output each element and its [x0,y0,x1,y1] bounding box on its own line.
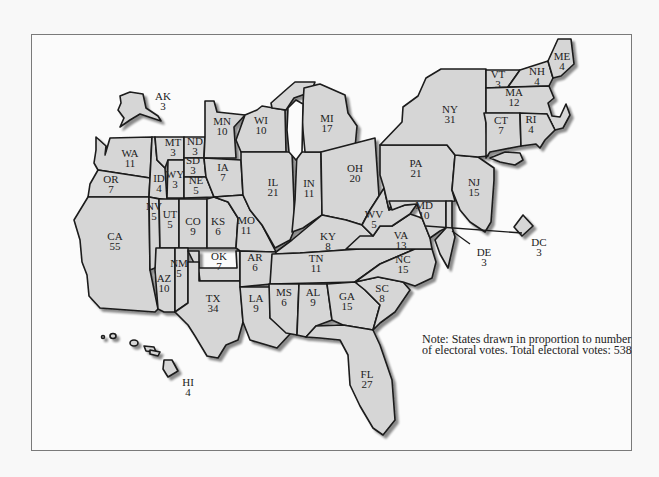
state-votes: 5 [193,184,199,196]
state-votes: 10 [217,125,229,137]
state-label-de: DE3 [477,246,492,268]
state-label-tx: TX34 [206,292,221,314]
map-note: Note: States drawn in proportion to numb… [422,334,642,356]
state-votes: 4 [528,123,534,135]
state-votes: 3 [160,100,166,112]
state-shape-hi[interactable] [102,334,179,378]
state-votes: 12 [509,96,520,108]
state-votes: 10 [256,124,268,136]
state-votes: 11 [125,157,136,169]
state-votes: 10 [419,209,431,221]
state-votes: 9 [190,225,196,237]
state-votes: 11 [311,262,322,274]
state-label-ak: AK3 [155,90,171,112]
state-label-va: VA13 [394,229,409,251]
state-votes: 55 [110,240,122,252]
lake-michigan [287,100,303,160]
state-votes: 7 [220,171,226,183]
state-votes: 21 [268,186,279,198]
state-votes: 8 [379,292,385,304]
state-votes: 34 [208,302,220,314]
state-votes: 20 [350,172,362,184]
state-votes: 3 [536,246,542,258]
state-votes: 4 [156,182,162,194]
state-votes: 7 [108,183,114,195]
state-votes: 7 [216,260,222,272]
state-label-nj: NJ15 [468,176,481,198]
electoral-cartogram: AK3HI4WA11OR7CA55ID4NV5MT3WY3UT5AZ10ND3S… [0,0,659,477]
state-votes: 6 [281,296,287,308]
state-votes: 13 [396,239,408,251]
state-votes: 5 [371,218,377,230]
state-votes: 15 [342,300,354,312]
state-label-dc: DC3 [531,236,546,258]
state-votes: 3 [481,256,487,268]
state-votes: 9 [310,296,316,308]
state-label-mi: MI17 [320,112,334,134]
state-votes: 6 [252,261,258,273]
state-votes: 15 [398,263,410,275]
state-votes: 4 [559,60,565,72]
state-votes: 4 [534,75,540,87]
state-label-pa: PA21 [409,157,422,179]
state-votes: 17 [322,122,334,134]
long-island-shape [490,152,523,165]
state-label-hi: HI4 [182,376,194,398]
state-shape-ca[interactable] [74,197,158,312]
state-votes: 3 [172,178,178,190]
state-votes: 5 [151,210,157,222]
state-label-az: AZ10 [157,272,172,294]
state-votes: 11 [304,187,315,199]
state-votes: 27 [362,378,374,390]
state-votes: 6 [215,225,221,237]
state-label-ca: CA55 [107,230,122,252]
state-votes: 5 [167,218,173,230]
state-label-il: IL21 [268,176,279,198]
state-votes: 10 [159,282,171,294]
state-votes: 8 [325,240,331,252]
state-votes: 15 [469,186,481,198]
state-votes: 11 [241,224,252,236]
state-votes: 3 [495,78,501,90]
state-shape-ny[interactable] [380,69,488,157]
state-votes: 4 [185,386,191,398]
state-label-fl: FL27 [361,368,374,390]
state-label-in: IN11 [303,177,315,199]
state-votes: 31 [445,113,456,125]
state-votes: 5 [176,267,182,279]
state-votes: 7 [498,124,504,136]
state-label-tn: TN11 [309,252,324,274]
state-label-wi: WI10 [254,114,268,136]
state-votes: 21 [411,167,422,179]
state-label-nc: NC15 [395,253,410,275]
state-shape-fl[interactable] [306,325,395,435]
state-votes: 3 [170,146,176,158]
state-votes: 9 [253,302,259,314]
